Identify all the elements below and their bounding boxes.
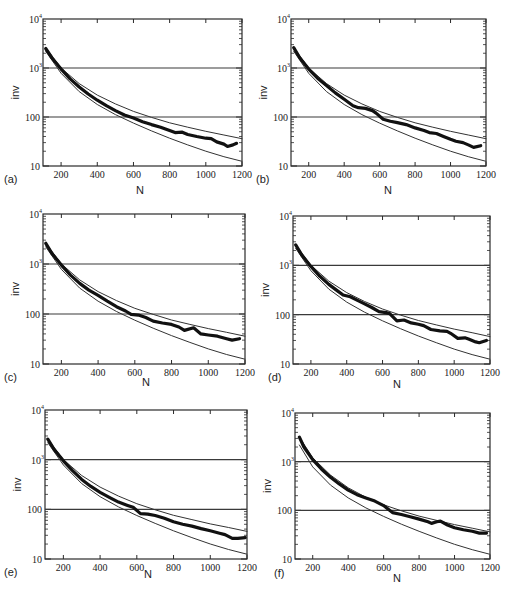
y-tick-label: 10	[280, 359, 290, 370]
y-tick-label: 104	[281, 407, 294, 419]
y-tick-label: 104	[277, 13, 290, 25]
panel-label: (d)	[268, 371, 281, 383]
x-tick-label: 200	[54, 169, 69, 180]
plot-frame	[295, 413, 490, 559]
x-tick-label: 1000	[198, 367, 218, 378]
x-axis-label: N	[136, 184, 144, 196]
panel-label: (b)	[256, 173, 269, 185]
x-axis-label: N	[384, 184, 392, 196]
y-tick-label: 100	[27, 504, 42, 515]
panel-label: (c)	[4, 371, 17, 383]
panel-label: (a)	[4, 173, 17, 185]
y-axis-label: inv	[257, 85, 269, 100]
chart-panel-f: 2004006008001000120010100103104invN(f)	[261, 407, 500, 584]
bound-curve	[46, 48, 242, 139]
y-tick-label: 104	[29, 208, 42, 220]
x-tick-label: 400	[341, 562, 356, 573]
bound-curve	[299, 437, 490, 532]
x-axis-label: N	[393, 572, 401, 584]
y-axis-label: inv	[9, 85, 21, 100]
figure: 2004006008001000120010100103104invN(a)20…	[0, 0, 508, 598]
y-axis-label: inv	[261, 478, 273, 493]
measured-curve	[299, 437, 486, 533]
plot-frame	[43, 19, 242, 166]
x-tick-label: 1000	[445, 562, 465, 573]
measured-curve	[46, 243, 240, 340]
y-tick-label: 10	[282, 554, 292, 565]
chart-panel-a: 2004006008001000120010100103104invN(a)	[4, 13, 252, 196]
panel-label: (e)	[4, 566, 17, 578]
measured-curve	[48, 439, 245, 538]
y-tick-label: 103	[29, 62, 42, 74]
x-axis-label: N	[144, 568, 152, 580]
plot-frame	[45, 410, 247, 559]
chart-panel-c: 2004006008001000120010100103104invN(c)	[4, 208, 255, 388]
plot-frame	[291, 19, 486, 166]
y-tick-label: 10	[32, 554, 42, 565]
x-tick-label: 800	[408, 169, 423, 180]
y-tick-label: 104	[31, 404, 44, 416]
measured-curve	[296, 245, 487, 343]
x-tick-label: 400	[90, 169, 105, 180]
y-tick-label: 103	[279, 259, 292, 271]
x-tick-label: 200	[301, 169, 316, 180]
x-tick-label: 400	[337, 169, 352, 180]
x-tick-label: 1200	[480, 562, 500, 573]
y-axis-label: inv	[259, 282, 271, 297]
x-tick-label: 1000	[444, 367, 464, 378]
y-tick-label: 103	[29, 258, 42, 270]
x-tick-label: 1000	[200, 562, 220, 573]
chart-panel-b: 2004006008001000120010100103104invN(b)	[256, 13, 496, 196]
x-tick-label: 1200	[480, 367, 500, 378]
x-tick-label: 800	[411, 367, 426, 378]
x-tick-label: 1200	[232, 169, 252, 180]
x-tick-label: 1000	[196, 169, 216, 180]
panel-label: (f)	[274, 567, 284, 579]
x-tick-label: 1000	[441, 169, 461, 180]
x-tick-label: 600	[126, 169, 141, 180]
y-axis-label: inv	[9, 281, 21, 296]
y-tick-label: 100	[25, 309, 40, 320]
x-tick-label: 600	[372, 169, 387, 180]
plot-frame	[293, 216, 490, 364]
y-tick-label: 10	[278, 161, 288, 172]
x-axis-label: N	[393, 378, 401, 390]
chart-panel-e: 2004006008001000120010100103104invN(e)	[4, 404, 257, 580]
y-tick-label: 10	[30, 359, 40, 370]
y-tick-label: 10	[30, 161, 40, 172]
bound-curve	[294, 48, 486, 139]
x-tick-label: 600	[375, 367, 390, 378]
x-tick-label: 1200	[476, 169, 496, 180]
x-tick-label: 400	[93, 562, 108, 573]
x-tick-label: 200	[56, 562, 71, 573]
bound-curve	[48, 439, 247, 531]
y-tick-label: 100	[25, 112, 40, 123]
x-tick-label: 600	[129, 562, 144, 573]
x-axis-label: N	[142, 376, 150, 388]
y-tick-label: 103	[281, 456, 294, 468]
x-tick-label: 400	[91, 367, 106, 378]
plot-frame	[43, 214, 245, 364]
y-tick-label: 104	[29, 13, 42, 25]
x-tick-label: 200	[303, 367, 318, 378]
x-tick-label: 200	[54, 367, 69, 378]
x-tick-label: 1200	[235, 367, 255, 378]
x-tick-label: 1200	[237, 562, 257, 573]
x-tick-label: 600	[376, 562, 391, 573]
x-tick-label: 800	[412, 562, 427, 573]
y-tick-label: 100	[277, 505, 292, 516]
measured-curve	[294, 48, 481, 148]
x-tick-label: 400	[339, 367, 354, 378]
y-tick-label: 103	[277, 62, 290, 74]
x-tick-label: 800	[164, 367, 179, 378]
y-tick-label: 103	[31, 454, 44, 466]
y-axis-label: inv	[11, 477, 23, 492]
y-tick-label: 104	[279, 210, 292, 222]
x-tick-label: 600	[127, 367, 142, 378]
x-tick-label: 800	[166, 562, 181, 573]
bound-curve	[46, 243, 245, 336]
chart-panel-d: 2004006008001000120010100103104invN(d)	[259, 210, 500, 390]
x-tick-label: 800	[162, 169, 177, 180]
y-tick-label: 100	[273, 112, 288, 123]
x-tick-label: 200	[305, 562, 320, 573]
